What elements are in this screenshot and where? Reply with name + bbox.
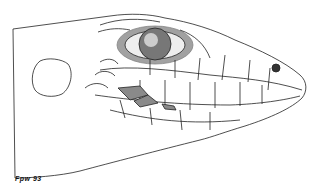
ear-opening — [32, 59, 71, 96]
artist-signature: Fpw 93 — [15, 175, 42, 182]
nostril — [272, 64, 280, 72]
lizard-head-illustration — [0, 0, 316, 194]
